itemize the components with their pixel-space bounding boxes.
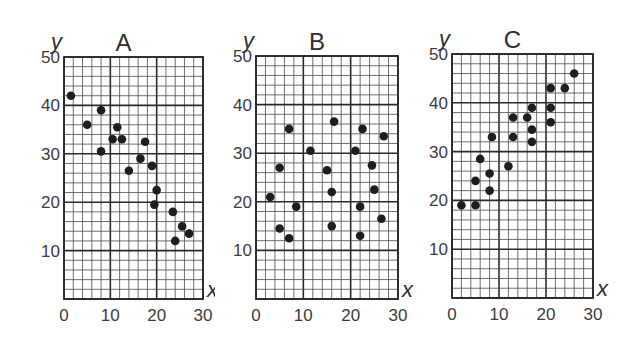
plot-frame [452, 54, 593, 298]
grid [452, 54, 593, 298]
data-point [528, 138, 537, 147]
data-point [504, 162, 513, 171]
data-point [509, 133, 518, 142]
data-point [471, 201, 480, 210]
data-point [546, 118, 555, 127]
data-point [476, 155, 485, 164]
data-point [488, 133, 497, 142]
data-point [523, 113, 532, 122]
x-tick-label: 20 [537, 305, 556, 324]
y-tick-label: 40 [429, 94, 448, 113]
x-tick-label: 30 [584, 305, 603, 324]
data-point [528, 125, 537, 134]
data-point [457, 201, 466, 210]
data-point [528, 103, 537, 112]
chart-title: C [504, 26, 521, 53]
x-tick-label: 0 [447, 305, 456, 324]
scatter-plot-c: 01020301020304050Cyx [0, 0, 641, 338]
data-point [471, 177, 480, 186]
y-axis-label: y [437, 26, 452, 51]
data-point [546, 84, 555, 93]
x-tick-label: 10 [490, 305, 509, 324]
y-tick-label: 10 [429, 240, 448, 259]
data-point [570, 69, 579, 78]
data-point [485, 186, 494, 195]
data-point [509, 113, 518, 122]
data-point [561, 84, 570, 93]
x-axis-label: x [596, 276, 609, 301]
y-tick-label: 20 [429, 191, 448, 210]
data-point [546, 103, 555, 112]
data-point [485, 169, 494, 178]
scatter-panel-c: 01020301020304050Cyx [0, 0, 641, 338]
y-tick-label: 30 [429, 143, 448, 162]
